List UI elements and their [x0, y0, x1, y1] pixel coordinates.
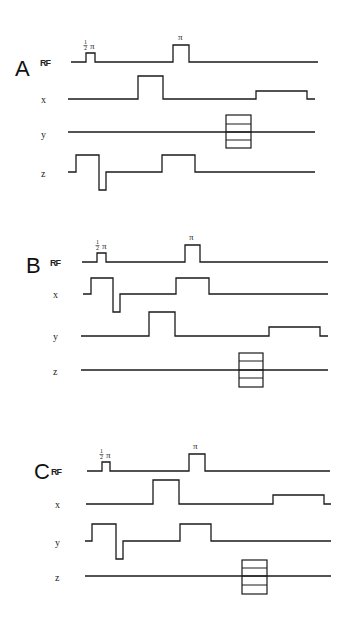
panel-b: B RF 12ππ x y z [26, 232, 328, 387]
channel-y: y [55, 524, 331, 559]
fraction-denominator: 2 [96, 245, 99, 251]
channel-label-rf: RF [50, 258, 61, 268]
fraction-denominator: 2 [84, 45, 87, 51]
pi-pulse-label: π [189, 232, 194, 242]
channel-label-z: z [55, 572, 60, 583]
channel-label-rf: RF [51, 467, 62, 477]
rf-trace [71, 45, 318, 62]
channel-label-z: z [41, 168, 46, 179]
channel-x: x [53, 278, 328, 312]
channel-rf: RF 12ππ [51, 441, 330, 477]
channel-z: z [53, 353, 328, 387]
fraction-denominator: 2 [100, 454, 103, 460]
rf-trace [82, 245, 328, 262]
panel-letter: C [34, 459, 50, 484]
channel-y: y [53, 312, 328, 342]
panel-letter: B [26, 253, 41, 278]
x-gradient-trace [83, 278, 328, 312]
pulse-sequence-diagram: A RF 12ππ x y z B RF 12ππ x y [0, 0, 350, 620]
y-gradient-trace [85, 524, 331, 559]
channel-label-z: z [53, 366, 58, 377]
y-gradient-trace [81, 312, 328, 336]
panel-c: C RF 12ππ x y z [34, 441, 331, 594]
channel-rf: RF 12ππ [50, 232, 328, 268]
half-pi-pulse-label: π [102, 241, 107, 251]
panel-letter: A [15, 56, 30, 81]
channel-x: x [55, 480, 331, 510]
channel-rf: RF 12ππ [40, 32, 318, 68]
channel-label-y: y [53, 331, 58, 342]
z-gradient-trace [68, 155, 315, 190]
rf-trace [87, 454, 330, 471]
pi-pulse-label: π [178, 32, 183, 42]
channel-label-rf: RF [40, 58, 51, 68]
channel-x: x [41, 76, 315, 105]
channel-label-y: y [41, 129, 46, 140]
channel-label-x: x [55, 499, 60, 510]
channel-label-x: x [53, 289, 58, 300]
channel-label-x: x [41, 94, 46, 105]
channel-y: y [41, 115, 315, 148]
half-pi-pulse-label: π [106, 450, 111, 460]
x-gradient-trace [68, 76, 315, 99]
phase-encode-gradient-table [242, 560, 267, 594]
channel-label-y: y [55, 537, 60, 548]
half-pi-pulse-label: π [90, 41, 95, 51]
channel-z: z [41, 155, 315, 190]
channel-z: z [55, 560, 331, 594]
x-gradient-trace [86, 480, 331, 504]
pi-pulse-label: π [193, 441, 198, 451]
panel-a: A RF 12ππ x y z [15, 32, 318, 190]
